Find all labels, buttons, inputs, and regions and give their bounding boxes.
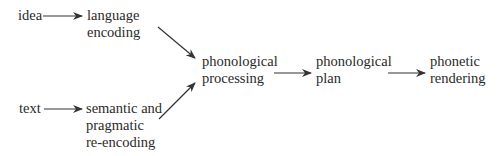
arrow-semantic-to-phon-processing [159,83,195,119]
arrow-language-encoding-to-phon-processing [158,27,195,58]
arrows-layer [0,0,497,156]
